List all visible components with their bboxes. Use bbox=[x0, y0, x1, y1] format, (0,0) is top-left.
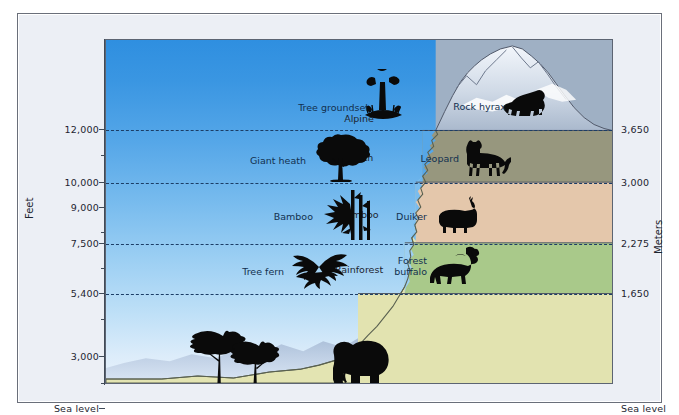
diagram-panel: Feet 12,000 10,000 9,000 7,500 5,400 3,0… bbox=[17, 13, 662, 403]
rock-hyrax-label: Rock hyrax bbox=[453, 101, 506, 112]
forest-buffalo-icon bbox=[426, 246, 480, 288]
gridline-7500ft bbox=[106, 244, 612, 245]
tree-fern-icon bbox=[288, 249, 350, 289]
elephant-icon bbox=[333, 335, 403, 384]
feet-tick-sealevel: Sea level bbox=[54, 403, 99, 414]
meters-axis-title: Meters bbox=[653, 220, 664, 254]
leopard-icon bbox=[459, 137, 511, 177]
feet-tick-12000: 12,000 bbox=[65, 124, 99, 135]
acacia-tree-icon bbox=[189, 322, 289, 384]
bamboo-label: Bamboo bbox=[274, 211, 313, 222]
meters-tick-3000: 3,000 bbox=[621, 177, 649, 188]
plot-area: Alpine Heath Bamboo Rainforest Savanna T… bbox=[105, 39, 613, 384]
giant-heath-label: Giant heath bbox=[250, 155, 306, 166]
giant-heath-icon bbox=[311, 134, 371, 182]
meters-axis: Meters 3,650 3,000 2,275 1,650 Sea level bbox=[613, 39, 663, 384]
duiker-icon bbox=[436, 196, 480, 234]
feet-axis: Feet 12,000 10,000 9,000 7,500 5,400 3,0… bbox=[18, 39, 105, 384]
zone-label-rainforest: Rainforest bbox=[106, 264, 612, 275]
gridline-12000ft bbox=[106, 130, 612, 131]
gridline-5400ft bbox=[106, 294, 612, 295]
feet-axis-title: Feet bbox=[24, 198, 35, 219]
duiker-label: Duiker bbox=[396, 211, 427, 222]
feet-tick-7500: 7,500 bbox=[71, 238, 99, 249]
rock-hyrax-icon bbox=[503, 87, 547, 117]
feet-tick-9000: 9,000 bbox=[71, 202, 99, 213]
altitudinal-zonation-diagram: Feet 12,000 10,000 9,000 7,500 5,400 3,0… bbox=[0, 0, 679, 415]
meters-tick-1650: 1,650 bbox=[621, 288, 649, 299]
tree-groundsel-label: Tree groundsel bbox=[298, 102, 368, 113]
leopard-label: Leopard bbox=[421, 153, 459, 164]
tree-fern-label: Tree fern bbox=[242, 266, 284, 277]
tree-groundsel-icon bbox=[362, 69, 404, 121]
feet-tick-3000: 3,000 bbox=[71, 351, 99, 362]
gridline-10000ft bbox=[106, 183, 612, 184]
meters-tick-sealevel: Sea level bbox=[621, 403, 666, 414]
feet-tick-5400: 5,400 bbox=[71, 288, 99, 299]
meters-tick-2275: 2,275 bbox=[621, 238, 649, 249]
meters-tick-3650: 3,650 bbox=[621, 124, 649, 135]
bamboo-icon bbox=[318, 188, 374, 242]
feet-tick-10000: 10,000 bbox=[65, 177, 99, 188]
forest-buffalo-label: Forest buffalo bbox=[394, 255, 427, 277]
feet-tickmark-sealevel bbox=[99, 408, 105, 409]
